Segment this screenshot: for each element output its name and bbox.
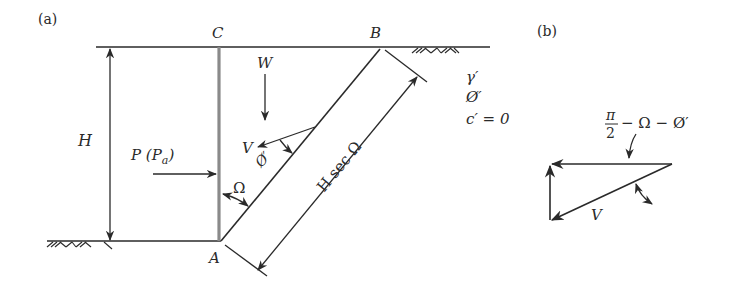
soil-properties: γ′ Ø′ c′ = 0 [465, 68, 510, 128]
panel-a-label: (a) [38, 11, 57, 27]
reaction-angle-arc [636, 184, 652, 204]
point-b-label: B [369, 24, 381, 42]
angle-pointer-arrow [629, 134, 636, 158]
dim-tick-b [385, 50, 427, 82]
angle-label-numerator: π [605, 107, 616, 123]
point-a-label: A [207, 249, 220, 267]
slip-length-label: H sec Ω [313, 138, 365, 196]
cohesion-property: c′ = 0 [466, 110, 510, 128]
angle-label-rest: − Ω − Ø′ [621, 114, 689, 132]
weight-label: W [257, 54, 274, 72]
dim-tick-a [225, 245, 267, 276]
friction-angle-arc [280, 140, 292, 153]
friction-angle-property: Ø′ [465, 88, 482, 106]
panel-a: (a) [38, 11, 510, 276]
reaction-vector [552, 164, 672, 220]
friction-angle-label: Ø′ [251, 148, 274, 171]
wall-angle-label: Ω [233, 179, 245, 197]
top-ground-hatch [412, 48, 459, 53]
panel-b: (b) π 2 − Ω − Ø′ V [537, 23, 689, 224]
wedge-diagram: (a) [0, 0, 748, 286]
point-c-label: C [212, 24, 224, 42]
thrust-label: P (Pa) [130, 146, 174, 167]
bottom-ground-hatch [47, 242, 112, 249]
unit-weight-label: γ′ [466, 68, 479, 86]
reaction-vector-label: V [591, 206, 604, 224]
reaction-label: V [242, 139, 255, 157]
angle-label-denominator: 2 [606, 125, 615, 141]
height-label: H [77, 131, 93, 150]
panel-b-label: (b) [537, 23, 557, 39]
